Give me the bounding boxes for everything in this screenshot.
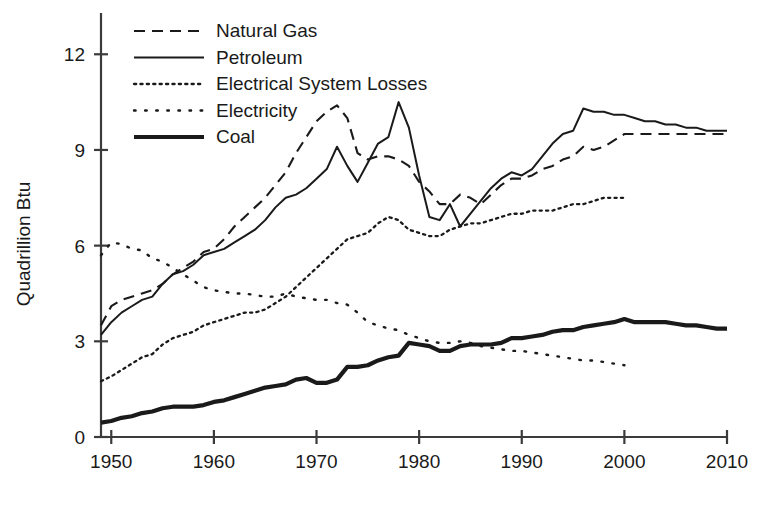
legend-label-electricity: Electricity	[216, 100, 298, 121]
chart-container: 036912 1950196019701980199020002010 Quad…	[0, 0, 777, 508]
legend-label-natural-gas: Natural Gas	[216, 20, 317, 41]
y-tick-label: 9	[74, 140, 85, 161]
chart-canvas: 036912 1950196019701980199020002010 Quad…	[0, 0, 777, 508]
x-tick-label: 1970	[295, 451, 337, 472]
y-axis-title: Quadrillion Btu	[13, 182, 34, 307]
legend-label-petroleum: Petroleum	[216, 47, 303, 68]
y-tick-label: 0	[74, 427, 85, 448]
x-tick-label: 2010	[706, 451, 748, 472]
x-tick-label: 1980	[398, 451, 440, 472]
y-tick-label: 12	[64, 44, 85, 65]
x-tick-label: 2000	[603, 451, 645, 472]
y-tick-label: 6	[74, 236, 85, 257]
x-tick-label: 1990	[501, 451, 543, 472]
y-tick-label: 3	[74, 331, 85, 352]
legend-label-coal: Coal	[216, 126, 255, 147]
legend-label-electrical-system-losses: Electrical System Losses	[216, 73, 427, 94]
x-tick-label: 1950	[90, 451, 132, 472]
x-tick-label: 1960	[193, 451, 235, 472]
